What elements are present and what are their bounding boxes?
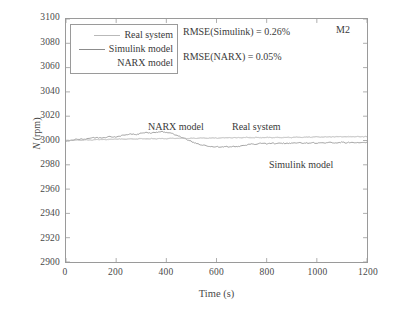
x-tick-label: 800 xyxy=(247,267,287,277)
x-tick-label: 400 xyxy=(146,267,186,277)
x-tick-label: 0 xyxy=(45,267,85,277)
x-tick-label: 200 xyxy=(96,267,136,277)
rmse-metrics: RMSE(Simulink) = 0.26% RMSE(NARX) = 0.05… xyxy=(183,27,290,77)
y-tick-label: 3060 xyxy=(18,61,60,71)
y-axis-symbol: N xyxy=(31,143,42,150)
legend: Real system Simulink model NARX model xyxy=(70,24,178,74)
legend-line-sample-real-system xyxy=(94,35,120,36)
y-tick-label: 2960 xyxy=(18,184,60,194)
subfigure-label: M2 xyxy=(336,24,350,35)
y-axis-title: N (rpm) xyxy=(31,94,42,174)
rmse-simulink-text: RMSE(Simulink) = 0.26% xyxy=(183,27,290,37)
y-tick-label: 3080 xyxy=(18,37,60,47)
legend-line-sample-simulink-model xyxy=(79,49,105,50)
legend-label-narx-model: NARX model xyxy=(117,58,173,68)
legend-label-simulink-model: Simulink model xyxy=(109,44,173,54)
y-tick-label: 3100 xyxy=(18,12,60,22)
annotation-narx-model: NARX model xyxy=(148,121,204,132)
rmse-narx-text: RMSE(NARX) = 0.05% xyxy=(183,52,290,62)
legend-line-sample-narx-model xyxy=(87,63,113,64)
x-tick-label: 1200 xyxy=(348,267,388,277)
y-tick-label: 2940 xyxy=(18,208,60,218)
legend-item-real-system: Real system xyxy=(74,28,173,42)
legend-item-narx-model: NARX model xyxy=(74,56,173,70)
x-axis-title: Time (s) xyxy=(65,288,368,299)
figure-chart-m2: 2900292029402960298030003020304030603080… xyxy=(0,0,399,315)
annotation-simulink-model: Simulink model xyxy=(269,159,333,170)
legend-item-simulink-model: Simulink model xyxy=(74,42,173,56)
y-tick-label: 2920 xyxy=(18,233,60,243)
legend-label-real-system: Real system xyxy=(124,30,173,40)
y-tick-label: 2900 xyxy=(18,257,60,267)
x-tick-label: 600 xyxy=(197,267,237,277)
annotation-real-system: Real system xyxy=(232,121,281,132)
y-axis-units: (rpm) xyxy=(31,118,42,143)
x-tick-label: 1000 xyxy=(298,267,338,277)
